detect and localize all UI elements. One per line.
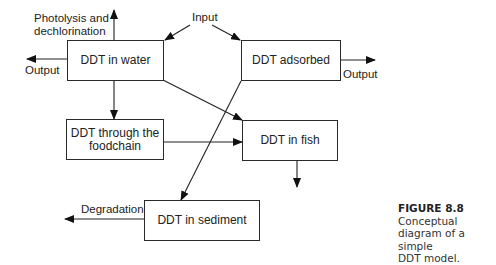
label-photolysis: Photolysis and dechlorination [34,12,109,38]
box-ddt-adsorbed: DDT adsorbed [241,40,341,81]
box-ddt-through-foodchain: DDT through the foodchain [66,119,164,160]
caption-line3: DDT model. [398,252,496,265]
caption-line1: FIGURE 8.8 Conceptual [398,202,496,227]
arrow-input-to-water [165,25,190,40]
box-ddt-in-sediment: DDT in sediment [144,200,260,241]
figure-number: FIGURE 8.8 [398,202,464,214]
box-label: DDT in sediment [157,214,246,227]
box-label-line2: foodchain [89,140,141,153]
box-label-line1: DDT through the [71,127,160,140]
label-degradation: Degradation [81,203,144,216]
label-output-right: Output [343,68,378,81]
label-input: Input [192,11,218,24]
box-label: DDT adsorbed [252,54,330,67]
arrow-water-to-fish [163,80,242,120]
box-ddt-in-water: DDT in water [67,40,164,81]
box-label: DDT in fish [260,134,319,147]
arrow-input-to-adsorbed [212,25,240,40]
box-ddt-in-fish: DDT in fish [242,120,338,161]
arrow-adsorbed-to-sediment [181,81,241,200]
label-photolysis-line2: dechlorination [34,25,109,38]
box-label: DDT in water [81,54,151,67]
label-output-left: Output [25,64,60,77]
caption-text1: Conceptual [398,215,457,227]
label-photolysis-line1: Photolysis and [34,12,109,25]
caption-line2: diagram of a simple [398,227,496,252]
figure-caption: FIGURE 8.8 Conceptual diagram of a simpl… [398,202,496,265]
